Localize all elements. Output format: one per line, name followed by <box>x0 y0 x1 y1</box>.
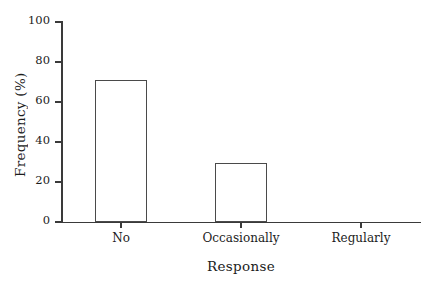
x-tick-mark <box>360 222 361 228</box>
bar <box>215 163 267 222</box>
bar-chart-figure: 020406080100 NoOccasionallyRegularly Res… <box>0 0 442 289</box>
y-axis-line <box>61 21 63 223</box>
y-tick-label: 0 <box>10 215 50 227</box>
y-tick-mark <box>55 221 61 222</box>
x-tick-label: No <box>51 232 191 245</box>
y-tick-mark <box>55 101 61 102</box>
x-axis-title: Response <box>61 258 421 274</box>
y-axis-title: Frequency (%) <box>12 60 30 190</box>
bar <box>95 80 147 222</box>
x-tick-label: Occasionally <box>171 232 311 245</box>
x-tick-mark <box>120 222 121 228</box>
y-tick-mark <box>55 21 61 22</box>
y-tick-label: 100 <box>10 15 50 27</box>
y-tick-mark <box>55 181 61 182</box>
y-tick-mark <box>55 141 61 142</box>
x-tick-label: Regularly <box>291 232 431 245</box>
y-tick-mark <box>55 61 61 62</box>
x-tick-mark <box>240 222 241 228</box>
